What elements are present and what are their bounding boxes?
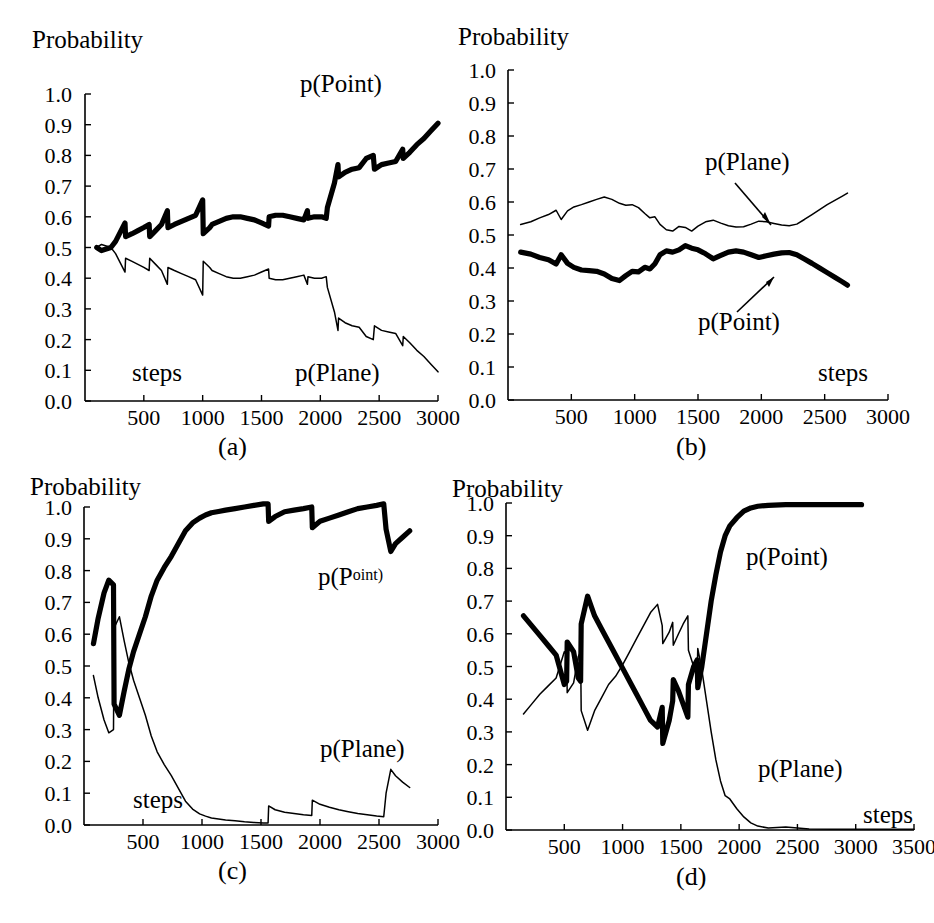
panel-c-point-label: p(Point) [318,563,383,591]
panel-b-ytick-labels: 1.00.90.80.70.60.50.40.30.20.10.0 [469,58,497,413]
ytick-label: 1.0 [45,495,73,520]
panel-a-steps-label: steps [132,359,182,386]
ytick-label: 0.4 [469,256,497,281]
ytick-label: 0.2 [467,753,495,778]
panel-d-steps-label: steps [863,801,913,828]
panel-c-series [93,504,409,823]
xtick-label: 2000 [717,834,761,859]
panel-b-point-label: p(Point) [698,308,780,336]
ytick-label: 0.1 [467,785,495,810]
ytick-label: 0.9 [467,524,495,549]
ytick-label: 1.0 [45,82,73,107]
panel-d-ytick-labels: 1.00.90.80.70.60.50.40.30.20.10.0 [467,491,495,843]
xtick-label: 1500 [659,834,703,859]
xtick-label: 2500 [357,829,401,854]
panel-a-plane-label: p(Plane) [295,359,380,387]
ytick-label: 0.7 [45,590,73,615]
panel-d-xtick-labels: 500100015002000250030003500 [548,834,934,859]
ytick-label: 0.2 [469,322,497,347]
ytick-label: 0.1 [45,781,73,806]
xtick-label: 2000 [298,405,342,430]
xtick-label: 2500 [357,405,401,430]
panel-a-curve-plane [97,244,438,371]
panel-a-axes [85,94,438,401]
xtick-label: 2500 [775,834,819,859]
ytick-label: 0.0 [467,818,495,843]
ytick-label: 0.2 [45,749,73,774]
panel-a-curve-point [97,123,438,250]
ytick-label: 0.4 [467,687,495,712]
xtick-label: 500 [127,405,160,430]
panel-b-svg: Probability 1.00.90.80.70.60.50.40.30.20… [440,0,934,461]
panel-c-curve-point [93,504,409,715]
ytick-label: 0.3 [45,297,73,322]
panel-c-y-ticks [84,507,438,825]
panel-b-y-ticks [508,70,888,400]
ytick-label: 0.8 [467,556,495,581]
panel-c-point-label-tail: oint) [353,566,383,584]
panel-c-plane-label: p(Plane) [320,735,405,763]
chart-panel-b: Probability 1.00.90.80.70.60.50.40.30.20… [440,0,934,461]
ytick-label: 0.3 [467,720,495,745]
ytick-label: 0.4 [45,266,73,291]
xtick-label: 1500 [676,404,720,429]
xtick-label: 1500 [239,829,283,854]
ytick-label: 0.0 [45,389,73,414]
ytick-label: 0.2 [45,328,73,353]
xtick-label: 1000 [180,829,224,854]
panel-c-axes [84,507,438,825]
ytick-label: 0.9 [45,113,73,138]
ytick-label: 0.9 [45,527,73,552]
panel-d-curve-point [523,505,861,744]
panel-b-steps-label: steps [818,359,868,386]
ytick-label: 0.5 [469,223,497,248]
panel-b-xtick-labels: 50010001500200025003000 [555,404,910,429]
panel-d-svg: Probability 1.00.90.80.70.60.50.40.30.20… [440,455,934,923]
ytick-label: 0.1 [45,358,73,383]
panel-a-point-label: p(Point) [300,70,382,98]
ytick-label: 0.6 [45,205,73,230]
panel-b-curve-plane [521,193,848,231]
xtick-label: 2000 [298,829,342,854]
ytick-label: 0.7 [45,174,73,199]
panel-b-curve-point [521,246,848,286]
panel-d-plane-label: p(Plane) [758,755,843,783]
panel-c-point-label-head: p(P [318,563,353,591]
ytick-label: 0.7 [467,589,495,614]
panel-b-plane-label: p(Plane) [705,148,790,176]
xtick-label: 1000 [613,404,657,429]
panel-c-xtick-labels: 50010001500200025003000 [127,829,461,854]
ytick-label: 0.6 [467,622,495,647]
xtick-label: 500 [555,404,588,429]
ytick-label: 0.3 [45,718,73,743]
xtick-label: 500 [127,829,160,854]
panel-b-axes [508,70,888,400]
ytick-label: 0.5 [45,654,73,679]
panel-a-svg: Probability 1.00.90.80.70.60.50.40.30.20… [0,0,467,461]
xtick-label: 1000 [181,405,225,430]
panel-a-xtick-labels: 50010001500200025003000 [127,405,460,430]
chart-panel-c: Probability 1.00.90.80.70.60.50.40.30.20… [0,455,467,923]
panel-a-y-ticks [85,94,438,401]
panel-d-point-label: p(Point) [746,543,828,571]
xtick-label: 3000 [866,404,910,429]
panel-a-ytick-labels: 1.00.90.80.70.60.50.40.30.20.10.0 [45,82,73,414]
xtick-label: 1500 [240,405,284,430]
panel-d-subcaption: (d) [676,862,706,891]
ytick-label: 0.0 [469,388,497,413]
ytick-label: 0.7 [469,157,497,182]
panel-c-ytick-labels: 1.00.90.80.70.60.50.40.30.20.10.0 [45,495,73,838]
panel-c-svg: Probability 1.00.90.80.70.60.50.40.30.20… [0,455,467,923]
xtick-label: 3000 [834,834,878,859]
panel-b-point-arrow [737,277,774,312]
chart-panel-a: Probability 1.00.90.80.70.60.50.40.30.20… [0,0,467,461]
panel-b-series [521,193,848,285]
ytick-label: 0.6 [45,622,73,647]
ytick-label: 1.0 [467,491,495,516]
panel-b-plane-arrow [735,183,771,225]
panel-c-subcaption: (c) [218,856,247,885]
ytick-label: 0.4 [45,686,73,711]
xtick-label: 3500 [892,834,934,859]
ytick-label: 0.8 [469,124,497,149]
xtick-label: 2500 [803,404,847,429]
